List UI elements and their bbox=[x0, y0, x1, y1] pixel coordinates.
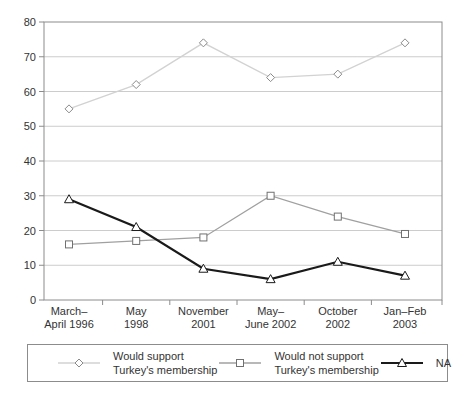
line-chart-plot: 01020304050607080March–April 1996May1998… bbox=[0, 0, 457, 338]
data-point-diamond bbox=[199, 39, 207, 47]
line-chart-figure: 01020304050607080March–April 1996May1998… bbox=[0, 0, 457, 394]
y-axis-label: 70 bbox=[24, 51, 36, 63]
y-axis-label: 60 bbox=[24, 86, 36, 98]
triangle-marker-icon bbox=[379, 356, 425, 370]
data-point-square bbox=[133, 237, 140, 244]
diamond-marker-glyph bbox=[75, 359, 83, 367]
x-axis-label: October2002 bbox=[318, 305, 357, 330]
x-axis-label: Jan–Feb2003 bbox=[384, 305, 427, 330]
series-line bbox=[69, 199, 405, 279]
legend-item-would-not-support: Would not support Turkey's membership bbox=[217, 349, 378, 378]
legend-item-would-support: Would support Turkey's membership bbox=[56, 349, 217, 378]
chart-legend: Would support Turkey's membership Would … bbox=[27, 344, 448, 382]
x-axis-label: May–June 2002 bbox=[245, 305, 296, 330]
data-point-triangle bbox=[333, 257, 342, 265]
square-marker-icon bbox=[217, 356, 263, 370]
legend-label-would-not-support: Would not support Turkey's membership bbox=[274, 349, 378, 378]
data-point-diamond bbox=[401, 39, 409, 47]
y-axis-label: 20 bbox=[24, 225, 36, 237]
legend-label-na: NA bbox=[436, 356, 451, 370]
legend-label-line1: Would support bbox=[113, 349, 217, 363]
data-point-diamond bbox=[267, 74, 275, 82]
y-axis-label: 80 bbox=[24, 16, 36, 28]
y-axis-label: 0 bbox=[30, 294, 36, 306]
legend-label-line1: Would not support bbox=[274, 349, 378, 363]
y-axis-label: 50 bbox=[24, 120, 36, 132]
data-point-diamond bbox=[132, 81, 140, 89]
legend-label-line2: Turkey's membership bbox=[274, 363, 378, 377]
x-axis-label: November2001 bbox=[178, 305, 229, 330]
square-marker-glyph bbox=[237, 360, 244, 367]
data-point-square bbox=[402, 230, 409, 237]
legend-label-line2: Turkey's membership bbox=[113, 363, 217, 377]
data-point-square bbox=[334, 213, 341, 220]
data-point-square bbox=[267, 192, 274, 199]
legend-item-na: NA bbox=[379, 356, 451, 370]
data-point-square bbox=[200, 234, 207, 241]
y-axis-label: 30 bbox=[24, 190, 36, 202]
data-point-square bbox=[66, 241, 73, 248]
legend-label-would-support: Would support Turkey's membership bbox=[113, 349, 217, 378]
y-axis-label: 10 bbox=[24, 259, 36, 271]
diamond-marker-icon bbox=[56, 356, 102, 370]
legend-label-line1: NA bbox=[436, 356, 451, 370]
x-axis-label: May1998 bbox=[124, 305, 148, 330]
series-line bbox=[69, 43, 405, 109]
x-axis-label: March–April 1996 bbox=[44, 305, 94, 330]
data-point-diamond bbox=[334, 70, 342, 78]
y-axis-label: 40 bbox=[24, 155, 36, 167]
data-point-diamond bbox=[65, 105, 73, 113]
